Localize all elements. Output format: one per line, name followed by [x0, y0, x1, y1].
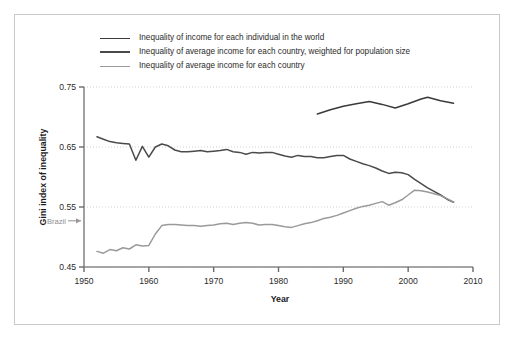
y-tick-label: 0.75 [59, 82, 76, 92]
y-tick-label: 0.65 [59, 142, 76, 152]
x-tick-labels-group: 1950196019701980199020002010 [74, 276, 482, 286]
x-tick-label: 1980 [269, 276, 288, 286]
x-axis-title: Year [271, 294, 290, 304]
x-tick-label: 2000 [399, 276, 418, 286]
x-tick-label: 1950 [74, 276, 93, 286]
brazil-annotation-label: Brazil [47, 217, 66, 226]
y-axis-title: Gini index of inequality [38, 129, 48, 226]
data-series-group [97, 97, 454, 253]
y-tick-label: 0.55 [59, 202, 76, 212]
y-tick-labels-group: 0.450.550.650.75 [59, 82, 76, 272]
brazil-annotation-arrowhead [76, 218, 81, 223]
chart-plot: 0.450.550.650.75 19501960197019801990200… [0, 0, 514, 339]
y-tick-label: 0.45 [59, 262, 76, 272]
series-line-2 [97, 190, 454, 253]
x-tick-label: 1970 [204, 276, 223, 286]
series-line-0 [317, 97, 453, 114]
x-tick-label: 1960 [139, 276, 158, 286]
gridlines-group [84, 87, 473, 267]
axis-lines-group [84, 87, 473, 267]
chart-figure: Inequality of income for each individual… [0, 0, 514, 339]
annotations-group: Brazil [47, 217, 81, 226]
x-tick-label: 1990 [334, 276, 353, 286]
x-tick-label: 2010 [463, 276, 482, 286]
